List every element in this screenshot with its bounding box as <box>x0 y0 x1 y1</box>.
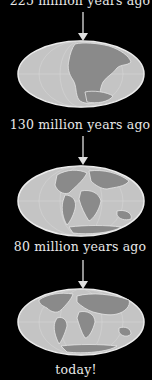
stage-label-225mya: 225 million years ago <box>0 0 152 8</box>
stage-label-today: today! <box>0 363 152 377</box>
arrow-down-icon <box>76 258 90 290</box>
globe-today <box>17 288 145 356</box>
arrow-down-icon <box>76 134 90 166</box>
globe-130mya <box>17 165 145 237</box>
arrow-down-icon <box>76 10 90 42</box>
stage-label-80mya: 80 million years ago <box>0 240 152 254</box>
stage-label-130mya: 130 million years ago <box>0 118 152 132</box>
globe-pangaea <box>17 40 145 108</box>
